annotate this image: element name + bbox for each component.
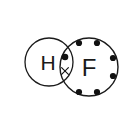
bonding-electron-dot-icon: [62, 54, 69, 61]
lone-pair-bottom-left-icon: [76, 89, 82, 95]
lewis-dot-diagram: Lewis dot structure of hydrogen fluoride…: [0, 0, 123, 134]
lone-pair-right-lower-icon: [110, 73, 116, 79]
fluorine-atom-label: F: [82, 54, 97, 81]
lone-pair-right-upper-icon: [110, 55, 116, 61]
hf-lewis-structure-svg: Lewis dot structure of hydrogen fluoride…: [0, 0, 123, 134]
shared-bonding-pair: [62, 54, 69, 75]
lone-pair-bottom-right-icon: [94, 89, 100, 95]
lone-pair-top-right-icon: [94, 40, 100, 46]
lone-pair-top-left-icon: [76, 40, 82, 46]
hydrogen-atom-label: H: [40, 51, 55, 74]
bonding-electron-cross-icon: [62, 68, 69, 75]
